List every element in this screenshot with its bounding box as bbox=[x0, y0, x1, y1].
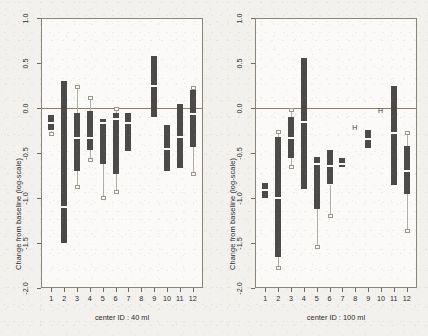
interval-bar bbox=[190, 90, 196, 147]
interval-bar bbox=[74, 113, 80, 171]
y-tick-mark bbox=[251, 108, 255, 109]
y-tick-label: 0.0 bbox=[235, 98, 244, 120]
panel-40ml: Change from baseline (log-scale) center … bbox=[0, 0, 214, 336]
x-tick-mark bbox=[64, 288, 65, 292]
y-tick-mark bbox=[37, 63, 41, 64]
two-panel-interval-chart: Change from baseline (log-scale) center … bbox=[0, 0, 428, 336]
whisker-cap-lower bbox=[88, 158, 93, 162]
point-estimate-marker: H bbox=[378, 107, 383, 114]
x-tick-mark bbox=[278, 288, 279, 292]
x-tick-mark bbox=[407, 288, 408, 292]
median-tick bbox=[275, 197, 281, 199]
x-tick-mark bbox=[154, 288, 155, 292]
whisker-cap-lower bbox=[405, 229, 410, 233]
x-tick-mark bbox=[167, 288, 168, 292]
interval-bar bbox=[61, 81, 67, 243]
x-tick-mark bbox=[77, 288, 78, 292]
y-tick-label: 0.5 bbox=[21, 53, 30, 75]
y-tick-mark bbox=[37, 198, 41, 199]
point-estimate-marker: H bbox=[352, 124, 357, 131]
x-tick-label: 12 bbox=[186, 294, 200, 303]
median-tick bbox=[151, 85, 157, 87]
whisker-cap-lower bbox=[191, 172, 196, 176]
x-tick-mark bbox=[180, 288, 181, 292]
median-tick bbox=[113, 118, 119, 120]
x-axis-label-right: center ID : 100 ml bbox=[255, 313, 417, 322]
interval-bar bbox=[301, 58, 307, 189]
median-tick bbox=[301, 121, 307, 123]
median-tick bbox=[365, 138, 371, 140]
interval-bar bbox=[391, 86, 397, 186]
median-tick bbox=[262, 189, 268, 191]
x-tick-mark bbox=[304, 288, 305, 292]
x-tick-mark bbox=[103, 288, 104, 292]
y-tick-label: -1.0 bbox=[21, 188, 30, 210]
x-tick-mark bbox=[394, 288, 395, 292]
interval-bar bbox=[327, 150, 333, 184]
y-tick-label: -2.0 bbox=[235, 278, 244, 300]
y-tick-mark bbox=[37, 243, 41, 244]
x-tick-mark bbox=[141, 288, 142, 292]
whisker-lower bbox=[317, 209, 318, 247]
y-tick-mark bbox=[251, 63, 255, 64]
y-tick-label: -0.5 bbox=[235, 143, 244, 165]
median-tick bbox=[74, 137, 80, 139]
interval-bar bbox=[125, 113, 131, 151]
median-tick bbox=[61, 206, 67, 208]
median-tick bbox=[48, 122, 54, 124]
median-tick bbox=[339, 163, 345, 165]
whisker-lower bbox=[193, 147, 194, 174]
y-tick-label: -1.0 bbox=[235, 188, 244, 210]
median-tick bbox=[177, 136, 183, 138]
whisker-cap-upper bbox=[405, 131, 410, 135]
interval-bar bbox=[87, 111, 93, 151]
y-tick-mark bbox=[37, 153, 41, 154]
x-tick-mark bbox=[193, 288, 194, 292]
median-tick bbox=[100, 122, 106, 124]
whisker-cap-lower bbox=[75, 185, 80, 189]
y-tick-mark bbox=[251, 153, 255, 154]
x-axis-label-left: center ID : 40 ml bbox=[41, 313, 203, 322]
median-tick bbox=[404, 170, 410, 172]
whisker-cap-lower bbox=[49, 132, 54, 136]
y-tick-mark bbox=[251, 198, 255, 199]
y-tick-label: -1.5 bbox=[21, 233, 30, 255]
y-tick-label: -2.0 bbox=[21, 278, 30, 300]
median-tick bbox=[314, 163, 320, 165]
whisker-cap-upper bbox=[88, 96, 93, 100]
x-tick-mark bbox=[128, 288, 129, 292]
x-tick-mark bbox=[116, 288, 117, 292]
whisker-cap-lower bbox=[328, 214, 333, 218]
y-tick-label: 1.0 bbox=[21, 8, 30, 30]
whisker-cap-lower bbox=[315, 245, 320, 249]
x-tick-mark bbox=[355, 288, 356, 292]
y-tick-mark bbox=[37, 288, 41, 289]
x-tick-mark bbox=[330, 288, 331, 292]
whisker-cap-upper bbox=[114, 107, 119, 111]
median-tick bbox=[327, 165, 333, 167]
x-tick-label: 12 bbox=[400, 294, 414, 303]
median-tick bbox=[391, 132, 397, 134]
whisker-lower bbox=[330, 185, 331, 217]
interval-bar bbox=[100, 119, 106, 164]
median-tick bbox=[87, 137, 93, 139]
y-tick-mark bbox=[251, 243, 255, 244]
x-tick-mark bbox=[265, 288, 266, 292]
median-tick bbox=[288, 137, 294, 139]
interval-bar bbox=[113, 113, 119, 173]
y-tick-mark bbox=[251, 288, 255, 289]
whisker-cap-upper bbox=[75, 85, 80, 89]
median-tick bbox=[164, 148, 170, 150]
y-tick-label: -1.5 bbox=[235, 233, 244, 255]
x-tick-mark bbox=[368, 288, 369, 292]
y-tick-label: 0.0 bbox=[21, 98, 30, 120]
y-tick-mark bbox=[37, 108, 41, 109]
y-tick-mark bbox=[251, 18, 255, 19]
whisker-cap-lower bbox=[276, 266, 281, 270]
median-tick bbox=[138, 136, 144, 138]
y-tick-label: -0.5 bbox=[21, 143, 30, 165]
whisker-lower bbox=[103, 164, 104, 198]
y-tick-label: 1.0 bbox=[235, 8, 244, 30]
panel-100ml: Change from baseline (log-scale) center … bbox=[214, 0, 428, 336]
whisker-cap-upper bbox=[289, 108, 294, 112]
